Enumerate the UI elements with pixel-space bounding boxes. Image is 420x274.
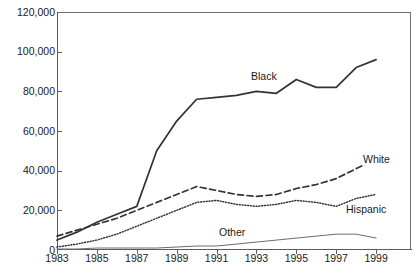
x-axis-tick-label: 1993 [236, 253, 276, 264]
x-axis-tick-mark [97, 250, 98, 254]
x-axis-tick-label: 1989 [157, 253, 197, 264]
x-axis-tick-label: 1987 [117, 253, 157, 264]
series-label-hispanic: Hispanic [345, 204, 387, 215]
x-axis-tick-mark [137, 250, 138, 254]
y-axis-tick-mark [57, 131, 62, 132]
x-axis-tick-mark [296, 250, 297, 254]
x-axis-tick-label: 1983 [37, 253, 77, 264]
y-axis-tick-label: 100,000 [3, 46, 55, 57]
y-axis-tick-label: 20,000 [3, 205, 55, 216]
y-axis-tick-labels: 020,00040,00060,00080,000100,000120,000 [0, 0, 55, 274]
y-axis-tick-label: 80,000 [3, 86, 55, 97]
y-axis-tick-label: 120,000 [3, 7, 55, 18]
x-axis-tick-mark [336, 250, 337, 254]
x-axis-line [57, 249, 412, 250]
series-label-other: Other [218, 227, 246, 238]
y-axis-tick-mark [57, 171, 62, 172]
y-axis-tick-label: 60,000 [3, 126, 55, 137]
x-axis-tick-mark [376, 250, 377, 254]
y-axis-tick-mark [57, 91, 62, 92]
y-axis-tick-label: 40,000 [3, 165, 55, 176]
chart-container: 020,00040,00060,00080,000100,000120,000 … [0, 0, 420, 274]
series-label-white: White [362, 154, 391, 165]
x-axis-tick-mark [57, 250, 58, 254]
x-axis-tick-mark [217, 250, 218, 254]
x-axis-tick-mark [256, 250, 257, 254]
x-axis-tick-label: 1999 [356, 253, 396, 264]
series-label-black: Black [250, 71, 278, 82]
clipped-title [8, 0, 338, 1]
x-axis-tick-label: 1997 [316, 253, 356, 264]
x-axis-tick-label: 1991 [197, 253, 237, 264]
x-axis-tick-label: 1995 [276, 253, 316, 264]
y-axis-tick-mark [57, 52, 62, 53]
x-axis-tick-mark [177, 250, 178, 254]
x-axis-tick-label: 1985 [77, 253, 117, 264]
y-axis-tick-mark [57, 210, 62, 211]
